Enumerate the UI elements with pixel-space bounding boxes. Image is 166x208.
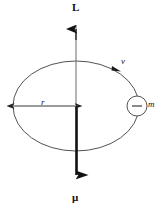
radius-label: r: [41, 98, 45, 107]
magnetic-moment-label: μ: [72, 192, 78, 203]
angular-momentum-label: L: [72, 2, 79, 13]
physics-diagram: L μ v m r: [0, 0, 166, 208]
velocity-label: v: [121, 57, 125, 66]
velocity-arrowhead-icon: [112, 66, 122, 72]
mass-label: m: [148, 100, 155, 109]
diagram-canvas: [0, 0, 166, 208]
